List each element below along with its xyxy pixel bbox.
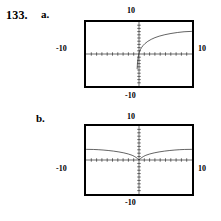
graph-a-canvas [86,22,192,86]
exercise-number: 133. [6,8,28,23]
graph-a [84,20,194,88]
graph-b-canvas [86,126,192,194]
part-a-label: a. [41,8,49,20]
graph-b-label-right: 10 [198,165,206,173]
graph-a-label-bottom: -10 [125,92,136,100]
part-b-label: b. [36,112,45,124]
graph-b-frame [84,124,194,196]
graph-b-label-bottom: -10 [125,199,136,207]
graph-a-label-left: -10 [56,45,67,53]
graph-a-label-right: 10 [198,45,206,53]
graph-a-label-top: 10 [127,7,135,15]
graph-b-label-left: -10 [56,165,67,173]
graph-a-curve [137,31,191,68]
graph-b-label-top: 10 [127,113,135,121]
exercise-figure-page: 133. a. [0,0,221,221]
graph-a-frame [84,20,194,88]
graph-b [84,124,194,196]
